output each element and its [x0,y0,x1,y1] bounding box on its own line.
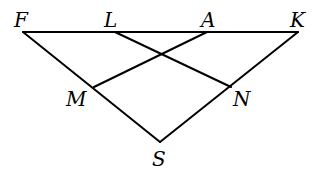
label-F: F [13,8,29,32]
label-K: K [289,8,306,32]
segment-FS [23,32,160,142]
label-A: A [199,8,215,32]
segment-LN [115,32,231,87]
label-M: M [65,87,87,111]
label-L: L [103,8,117,32]
geometry-diagram: F L A K M N S [0,0,329,181]
label-N: N [232,87,252,111]
segment-AM [94,32,207,87]
label-S: S [152,147,166,171]
